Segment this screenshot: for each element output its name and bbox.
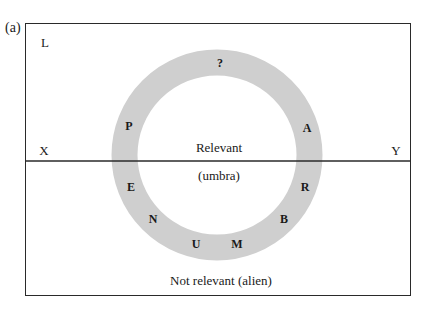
ring-letter-b: B (280, 213, 288, 225)
umbra-label: (umbra) (198, 169, 240, 182)
ring-letter-e: E (127, 181, 135, 193)
not-relevant-label: Not relevant (alien) (170, 274, 272, 287)
axis-label-x: X (39, 144, 48, 157)
ring-letter-n: N (149, 213, 158, 225)
ring-letter-p: P (125, 120, 132, 132)
corner-label-l: L (41, 36, 49, 49)
diagram-graphics (0, 0, 436, 312)
ring-letter-question: ? (217, 57, 223, 69)
axis-label-y: Y (391, 144, 400, 157)
ring-letter-r: R (301, 181, 310, 193)
ring-letter-m: M (231, 238, 242, 250)
ring-letter-u: U (192, 238, 201, 250)
ring-letter-a: A (303, 122, 312, 134)
relevant-label: Relevant (196, 141, 242, 154)
